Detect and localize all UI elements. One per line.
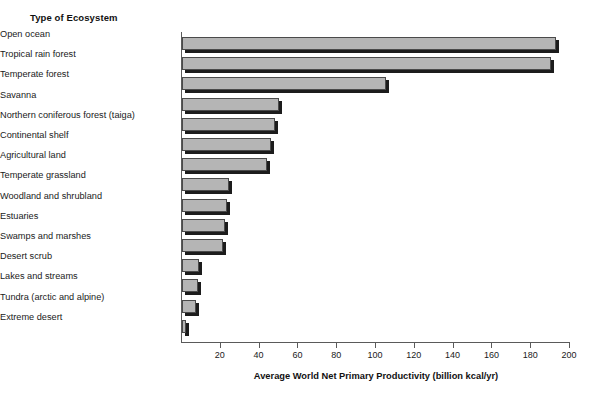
x-tick-label-80: 80 — [321, 350, 351, 360]
category-label-2: Tropical rain forest — [0, 48, 76, 60]
category-label-7: Agricultural land — [0, 149, 66, 161]
x-axis-title: Average World Net Primary Productivity (… — [182, 371, 570, 381]
bar-11 — [182, 239, 226, 255]
x-tick-label-140: 140 — [438, 350, 468, 360]
bar-shadow-bottom — [185, 252, 226, 255]
x-tick-label-100: 100 — [360, 350, 390, 360]
bar-body — [182, 199, 227, 212]
bar-shadow-bottom — [185, 232, 228, 235]
bar-body — [182, 219, 225, 232]
x-tick-200 — [569, 343, 570, 348]
category-label-4: Savanna — [0, 89, 36, 101]
y-axis-line — [181, 32, 182, 342]
category-label-13: Lakes and streams — [0, 270, 78, 282]
category-label-3: Temperate forest — [0, 68, 69, 80]
category-label-10: Estuaries — [0, 210, 38, 222]
bar-5 — [182, 118, 278, 134]
category-axis-title: Type of Ecosystem — [30, 10, 180, 26]
category-label-5: Northern coniferous forest (taiga) — [0, 109, 135, 121]
category-label-8: Temperate grassland — [0, 169, 86, 181]
bar-shadow-right — [225, 222, 228, 235]
bar-shadow-right — [386, 80, 389, 93]
x-tick-20 — [220, 343, 221, 348]
bar-body — [182, 77, 386, 90]
x-tick-label-20: 20 — [205, 350, 235, 360]
bar-shadow-right — [271, 141, 274, 154]
bar-shadow-right — [186, 323, 189, 336]
bar-1 — [182, 37, 559, 53]
category-label-1: Open ocean — [0, 28, 50, 40]
chart-page: Type of Ecosystem Average World Net Prim… — [0, 0, 610, 396]
bar-7 — [182, 158, 270, 174]
bar-shadow-bottom — [185, 171, 270, 174]
x-tick-40 — [259, 343, 260, 348]
x-tick-100 — [375, 343, 376, 348]
bar-13 — [182, 279, 201, 295]
x-tick-60 — [297, 343, 298, 348]
x-tick-80 — [336, 343, 337, 348]
bar-shadow-right — [223, 242, 226, 255]
bar-shadow-right — [279, 101, 282, 114]
bar-shadow-bottom — [185, 191, 232, 194]
bar-body — [182, 158, 267, 171]
bar-body — [182, 300, 196, 313]
bar-body — [182, 138, 271, 151]
bar-9 — [182, 199, 230, 215]
x-tick-label-160: 160 — [476, 350, 506, 360]
bar-shadow-bottom — [185, 151, 274, 154]
bar-14 — [182, 300, 199, 316]
bar-body — [182, 279, 198, 292]
bar-body — [182, 320, 186, 333]
bar-body — [182, 259, 199, 272]
category-label-15: Extreme desert — [0, 311, 62, 323]
bar-shadow-bottom — [185, 111, 282, 114]
bar-body — [182, 57, 551, 70]
bar-shadow-bottom — [185, 70, 554, 73]
bar-body — [182, 118, 275, 131]
bar-body — [182, 37, 556, 50]
x-tick-160 — [491, 343, 492, 348]
plot-area — [182, 32, 570, 336]
bar-10 — [182, 219, 228, 235]
bar-shadow-right — [267, 161, 270, 174]
x-tick-120 — [414, 343, 415, 348]
bar-shadow-bottom — [185, 212, 230, 215]
bar-shadow-right — [199, 262, 202, 275]
bar-4 — [182, 98, 282, 114]
bar-shadow-right — [556, 40, 559, 53]
bar-body — [182, 239, 223, 252]
x-tick-label-60: 60 — [282, 350, 312, 360]
category-label-12: Desert scrub — [0, 250, 52, 262]
bar-8 — [182, 178, 232, 194]
category-label-14: Tundra (arctic and alpine) — [0, 291, 104, 303]
bar-shadow-bottom — [185, 90, 389, 93]
x-tick-label-180: 180 — [515, 350, 545, 360]
bar-6 — [182, 138, 274, 154]
bar-shadow-right — [275, 121, 278, 134]
x-tick-180 — [530, 343, 531, 348]
bar-shadow-bottom — [185, 131, 278, 134]
bar-shadow-bottom — [185, 50, 559, 53]
bar-shadow-right — [227, 202, 230, 215]
x-tick-label-120: 120 — [399, 350, 429, 360]
bar-body — [182, 178, 229, 191]
bar-12 — [182, 259, 202, 275]
bar-shadow-right — [551, 60, 554, 73]
x-tick-label-200: 200 — [554, 350, 584, 360]
bar-shadow-right — [198, 282, 201, 295]
bar-15 — [182, 320, 189, 336]
category-label-11: Swamps and marshes — [0, 230, 91, 242]
bar-shadow-right — [229, 181, 232, 194]
category-label-9: Woodland and shrubland — [0, 190, 102, 202]
category-label-6: Continental shelf — [0, 129, 68, 141]
x-tick-140 — [453, 343, 454, 348]
bar-2 — [182, 57, 554, 73]
bar-3 — [182, 77, 389, 93]
bar-shadow-right — [196, 303, 199, 316]
bar-body — [182, 98, 279, 111]
x-tick-label-40: 40 — [244, 350, 274, 360]
